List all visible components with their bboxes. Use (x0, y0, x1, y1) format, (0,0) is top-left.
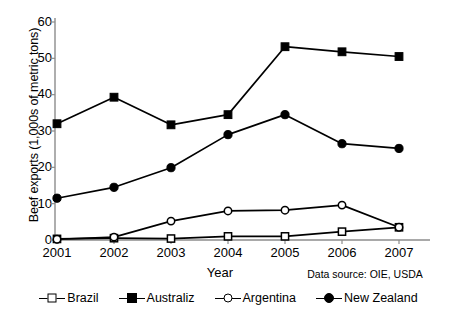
data-point (167, 217, 174, 224)
data-point (53, 120, 61, 128)
data-point (110, 183, 118, 191)
circle-filled-marker-icon (316, 292, 342, 304)
data-point (338, 228, 345, 235)
data-point (224, 111, 232, 119)
data-point (224, 131, 232, 139)
series-australiz (53, 43, 403, 129)
x-tick-label: 2006 (315, 246, 369, 260)
data-point (224, 233, 231, 240)
data-point (110, 93, 118, 101)
legend-item-brazil[interactable]: Brazil (39, 291, 98, 305)
x-tick-label: 2007 (372, 246, 426, 260)
x-axis-tick-labels: 2001 2002 2003 2004 2005 2006 2007 (0, 246, 457, 266)
data-series-layer (53, 43, 403, 243)
data-point (224, 207, 231, 214)
data-point (338, 48, 346, 56)
data-point (281, 43, 289, 51)
legend-label: New Zealand (343, 291, 418, 305)
x-tick-label: 2004 (201, 246, 255, 260)
chart-legend: Brazil Australiz Argentina New Zealand (0, 287, 457, 309)
data-point (53, 236, 60, 243)
data-point (281, 111, 289, 119)
data-point (281, 233, 288, 240)
data-point (281, 207, 288, 214)
legend-label: Brazil (66, 291, 98, 305)
data-point (395, 53, 403, 61)
square-filled-marker-icon (119, 292, 145, 304)
data-point (167, 121, 175, 129)
data-point (395, 224, 402, 231)
x-tick-label: 2003 (144, 246, 198, 260)
x-tick-label: 2001 (30, 246, 84, 260)
data-point (167, 164, 175, 172)
data-point (395, 144, 403, 152)
x-tick-label: 2005 (258, 246, 312, 260)
circle-open-marker-icon (215, 292, 241, 304)
series-new-zealand (53, 111, 403, 203)
x-tick-label: 2002 (87, 246, 141, 260)
data-point (338, 140, 346, 148)
data-point (53, 194, 61, 202)
data-source-note: Data source: OIE, USDA (280, 268, 450, 280)
legend-label: Australiz (146, 291, 195, 305)
beef-exports-line-chart: Beef exports (1,000s of metric tons) 60 … (0, 0, 457, 317)
data-point (110, 233, 117, 240)
legend-label: Argentina (242, 291, 297, 305)
legend-item-australia[interactable]: Australiz (119, 291, 195, 305)
data-point (167, 235, 174, 242)
data-point (338, 201, 345, 208)
legend-item-new-zealand[interactable]: New Zealand (316, 291, 418, 305)
x-axis-title: Year (160, 265, 280, 280)
legend-item-argentina[interactable]: Argentina (215, 291, 297, 305)
square-open-marker-icon (39, 292, 65, 304)
